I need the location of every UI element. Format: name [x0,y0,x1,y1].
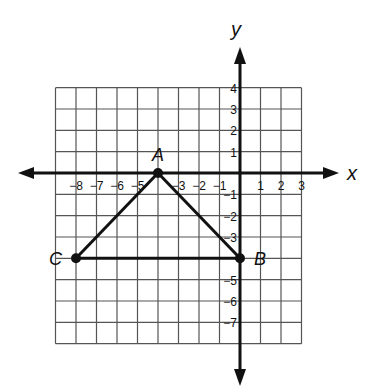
tick-labels: −8−7−6−5−3−2−11234321−1−2−3−5−6−7 [69,82,305,331]
point-label-a: A [151,145,164,165]
y-tick-label: −1 [223,188,237,202]
point-label-c: C [49,249,63,269]
x-tick-label: −2 [192,179,206,193]
x-tick-label: 2 [278,179,285,193]
x-tick-label: −6 [110,179,124,193]
x-tick-label: 1 [257,179,264,193]
x-axis-left-arrow-icon [18,167,34,179]
y-tick-label: −6 [223,295,237,309]
y-tick-label: 3 [230,103,237,117]
point-b [235,253,245,263]
point-a [153,168,163,178]
y-tick-label: −5 [223,274,237,288]
coordinate-plane: −8−7−6−5−3−2−11234321−1−2−3−5−6−7 ABC x … [0,0,375,391]
x-tick-label: −8 [69,179,83,193]
y-tick-label: −2 [223,210,237,224]
point-label-b: B [254,249,266,269]
y-tick-label: −7 [223,316,237,330]
x-axis-right-arrow-icon [323,167,339,179]
y-tick-label: 4 [230,82,237,96]
y-axis-label: y [229,18,242,40]
y-axis-up-arrow-icon [234,47,246,64]
grid [56,88,302,344]
x-tick-label: −7 [90,179,104,193]
y-axis-down-arrow-icon [234,369,246,386]
y-tick-label: 2 [230,124,237,138]
y-tick-label: 1 [230,146,237,160]
x-tick-label: 3 [298,179,305,193]
point-c [71,253,81,263]
x-axis-label: x [346,162,358,184]
